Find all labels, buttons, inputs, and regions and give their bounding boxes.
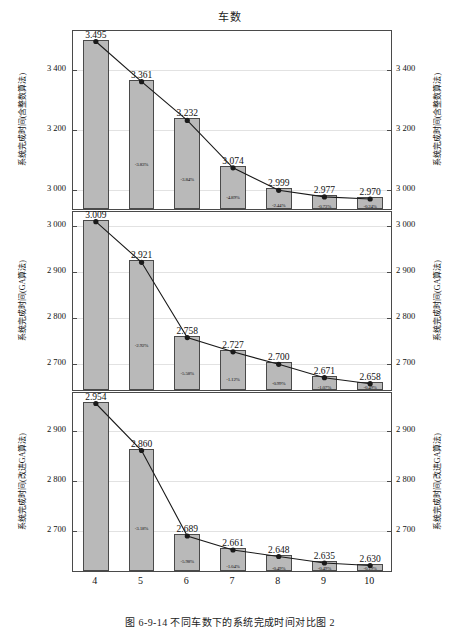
plot-area-3: 2.9542.860-3.18%2.689-5.98%2.661-1.04%2.… — [72, 392, 392, 572]
y-axis-title-right: 系统完成时间(含整数算法) — [431, 55, 442, 185]
x-axis-tick-label: 6 — [163, 575, 209, 586]
plot-area-2: 3.0092.921-2.92%2.758-5.58%2.727-1.12%2.… — [72, 211, 392, 391]
y-axis-tick-label-left: 2 800 — [0, 474, 66, 484]
trend-line — [96, 222, 370, 384]
data-point-marker — [368, 563, 373, 568]
y-axis-tick-label-right: 2 800 — [396, 474, 456, 484]
trend-line-series — [73, 393, 393, 573]
data-point-marker — [230, 165, 235, 170]
y-axis-tick-label-right: 3 400 — [396, 63, 456, 73]
y-axis-title-left: 系统完成时间(改进GA算法) — [16, 417, 27, 547]
y-axis-tick-label-right: 2 900 — [396, 265, 456, 275]
data-point-marker — [185, 335, 190, 340]
y-axis-tick-label-right: 2 800 — [396, 311, 456, 321]
data-point-marker — [230, 547, 235, 552]
y-axis-tick-label-right: 3 000 — [396, 183, 456, 193]
figure-container: 车数 3.4953.361-3.83%3.232-3.84%3.074-4.89… — [0, 0, 460, 634]
data-point-marker — [185, 533, 190, 538]
trend-line — [96, 404, 370, 566]
figure-caption: 图 6-9-14 不同车数下的系统完成时间对比图 2 — [0, 614, 460, 629]
y-axis-title-right: 系统完成时间(改进GA算法) — [431, 417, 442, 547]
x-axis-tick-label: 4 — [72, 575, 118, 586]
y-axis-title-left: 系统完成时间(GA算法) — [16, 236, 27, 366]
y-axis-tick-label-left: 2 800 — [0, 311, 66, 321]
data-point-marker — [368, 196, 373, 201]
trend-line-series — [73, 31, 393, 211]
chart-panel-3: 2.9542.860-3.18%2.689-5.98%2.661-1.04%2.… — [72, 392, 392, 572]
y-axis-tick-label-left: 3 400 — [0, 63, 66, 73]
y-axis-tick-label-right: 3 000 — [396, 219, 456, 229]
x-axis-tick-label: 10 — [346, 575, 392, 586]
data-point-marker — [93, 39, 98, 44]
x-axis-labels: 45678910 — [72, 575, 392, 591]
y-axis-tick-label-left: 3 000 — [0, 183, 66, 193]
chart-panel-2: 3.0092.921-2.92%2.758-5.58%2.727-1.12%2.… — [72, 211, 392, 391]
y-axis-tick-label-left: 2 700 — [0, 357, 66, 367]
y-axis-tick-label-right: 3 200 — [396, 123, 456, 133]
chart-panel-1: 3.4953.361-3.83%3.232-3.84%3.074-4.89%2.… — [72, 30, 392, 210]
y-axis-tick-label-left: 3 000 — [0, 219, 66, 229]
data-point-marker — [93, 401, 98, 406]
trend-line — [96, 42, 370, 200]
data-point-marker — [139, 448, 144, 453]
chart-title: 车数 — [0, 8, 460, 24]
y-axis-title-left: 系统完成时间(含整数算法) — [16, 55, 27, 185]
data-point-marker — [93, 219, 98, 224]
x-axis-tick-label: 5 — [118, 575, 164, 586]
data-point-marker — [322, 560, 327, 565]
x-axis-tick-label: 9 — [301, 575, 347, 586]
data-point-marker — [185, 118, 190, 123]
y-axis-tick-label-right: 2 700 — [396, 357, 456, 367]
data-point-marker — [139, 260, 144, 265]
y-axis-tick-label-right: 2 700 — [396, 524, 456, 534]
x-axis-tick-label: 7 — [209, 575, 255, 586]
trend-line-series — [73, 212, 393, 392]
y-axis-tick-label-left: 2 900 — [0, 424, 66, 434]
data-point-marker — [368, 381, 373, 386]
data-point-marker — [276, 362, 281, 367]
data-point-marker — [230, 349, 235, 354]
y-axis-tick-label-left: 2 900 — [0, 265, 66, 275]
data-point-marker — [276, 554, 281, 559]
data-point-marker — [322, 375, 327, 380]
plot-area-1: 3.4953.361-3.83%3.232-3.84%3.074-4.89%2.… — [72, 30, 392, 210]
data-point-marker — [276, 188, 281, 193]
y-axis-tick-label-left: 2 700 — [0, 524, 66, 534]
y-axis-title-right: 系统完成时间(GA算法) — [431, 236, 442, 366]
data-point-marker — [139, 79, 144, 84]
y-axis-tick-label-right: 2 900 — [396, 424, 456, 434]
y-axis-tick-label-left: 3 200 — [0, 123, 66, 133]
data-point-marker — [322, 194, 327, 199]
x-axis-tick-label: 8 — [255, 575, 301, 586]
